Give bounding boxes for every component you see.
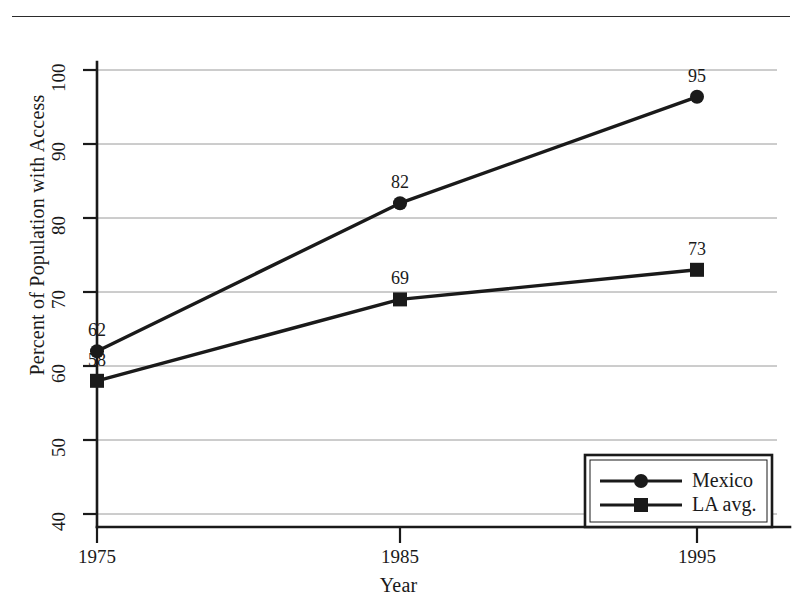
gridlines (97, 70, 777, 514)
data-point-mexico-1995 (690, 90, 704, 104)
data-point-mexico-1985 (393, 196, 407, 210)
y-axis-ticks (83, 70, 97, 514)
series-mexico-markers (90, 90, 704, 358)
point-label-la-avg-1985: 69 (379, 268, 421, 289)
series-mexico (97, 97, 697, 351)
data-point-la-avg-1995 (690, 263, 704, 277)
point-label-mexico-1985: 82 (379, 172, 421, 193)
legend-label-mexico: Mexico (692, 469, 753, 492)
line-chart-canvas (0, 0, 797, 611)
data-point-la-avg-1985 (393, 292, 407, 306)
legend-circle-marker-icon (634, 474, 648, 488)
point-label-mexico-1975: 62 (76, 320, 118, 341)
legend-label-la-avg: LA avg. (692, 493, 756, 516)
x-axis-ticks (97, 527, 697, 543)
point-label-mexico-1995: 95 (676, 66, 718, 87)
point-label-la-avg-1975: 58 (76, 350, 118, 371)
chart-figure: Percent of Population with Access Year 1… (0, 0, 797, 611)
y-axis-title: Percent of Population with Access (26, 0, 49, 470)
data-point-la-avg-1975 (90, 374, 104, 388)
x-axis-title: Year (0, 574, 797, 597)
series-mexico-line (97, 97, 697, 351)
x-tick-label-1985: 1985 (360, 546, 440, 568)
point-label-la-avg-1995: 73 (676, 239, 718, 260)
x-tick-label-1975: 1975 (57, 546, 137, 568)
legend-square-marker-icon (634, 498, 648, 512)
x-tick-label-1995: 1995 (657, 546, 737, 568)
